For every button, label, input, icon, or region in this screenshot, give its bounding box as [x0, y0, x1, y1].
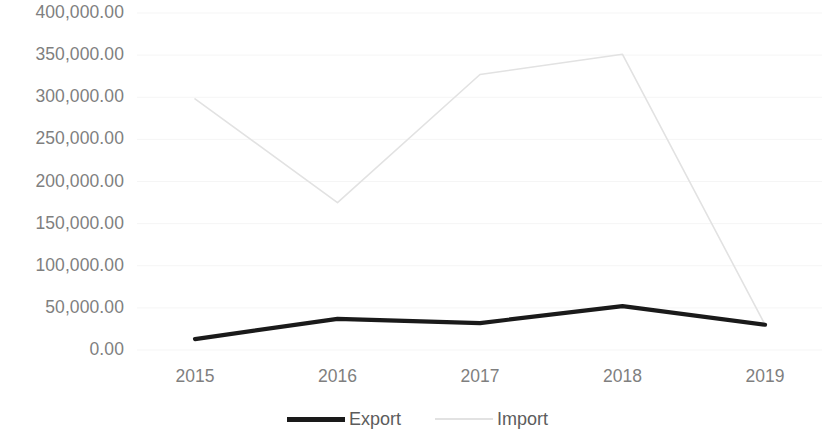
x-tick-label: 2019 [746, 366, 785, 388]
legend-label-export: Export [349, 410, 401, 428]
chart-legend: Export Import [0, 404, 835, 434]
y-axis: 0.0050,000.00100,000.00150,000.00200,000… [0, 0, 124, 360]
line-chart: 0.0050,000.00100,000.00150,000.00200,000… [0, 0, 835, 434]
legend-label-import: Import [497, 410, 548, 428]
y-tick-label: 200,000.00 [0, 173, 124, 191]
y-tick-label: 100,000.00 [0, 257, 124, 275]
y-tick-label: 50,000.00 [0, 299, 124, 317]
legend-line-icon-export [287, 412, 345, 426]
y-tick-label: 300,000.00 [0, 89, 124, 107]
x-tick-label: 2018 [603, 366, 642, 388]
legend-item-export[interactable]: Export [287, 410, 401, 428]
x-tick-label: 2017 [461, 366, 500, 388]
y-tick-label: 400,000.00 [0, 4, 124, 22]
y-tick-label: 150,000.00 [0, 215, 124, 233]
y-tick-label: 350,000.00 [0, 46, 124, 64]
series-line-import [195, 54, 765, 324]
series-line-export [195, 306, 765, 339]
x-tick-label: 2015 [176, 366, 215, 388]
legend-item-import[interactable]: Import [435, 410, 548, 428]
x-axis: 20152016201720182019 [0, 366, 835, 392]
y-tick-label: 250,000.00 [0, 131, 124, 149]
legend-line-icon-import [435, 412, 493, 426]
x-tick-label: 2016 [318, 366, 357, 388]
y-tick-label: 0.00 [0, 341, 124, 359]
gridlines [137, 13, 822, 350]
